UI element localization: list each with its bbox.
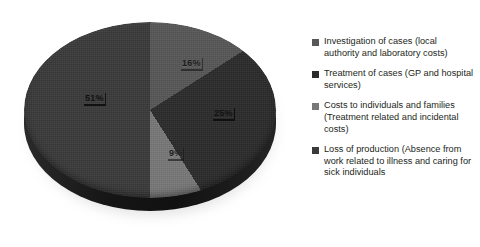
legend-swatch-icon [312,103,319,110]
data-label-value: 9% [168,148,184,161]
legend-swatch-icon [312,39,319,46]
data-label-treatment: 25% [213,108,235,121]
pie-slices [24,22,276,198]
data-label-individual-costs: 9% [168,148,184,161]
data-label-value: 51% [84,93,106,106]
legend-swatch-icon [312,71,319,78]
legend-item[interactable]: Investigation of cases (local authority … [312,36,474,59]
legend-swatch-icon [312,147,319,154]
chart-legend: Investigation of cases (local authority … [312,36,474,188]
legend-item-label: Investigation of cases (local authority … [324,36,474,59]
pie-chart: 16% 25% 9% 51% Investigation of cases (l… [0,0,480,247]
legend-item[interactable]: Costs to individuals and families (Treat… [312,100,474,135]
data-label-investigation: 16% [181,58,203,71]
data-label-value: 25% [213,108,235,121]
legend-item-label: Costs to individuals and families (Treat… [324,100,474,135]
legend-item[interactable]: Loss of production (Absence from work re… [312,144,474,179]
pie-disc [24,22,276,198]
data-label-value: 16% [181,58,203,71]
pie-plot-area: 16% 25% 9% 51% [0,0,300,247]
legend-item[interactable]: Treatment of cases (GP and hospital serv… [312,68,474,91]
legend-item-label: Loss of production (Absence from work re… [324,144,474,179]
data-label-loss-of-production: 51% [84,93,106,106]
legend-item-label: Treatment of cases (GP and hospital serv… [324,68,474,91]
